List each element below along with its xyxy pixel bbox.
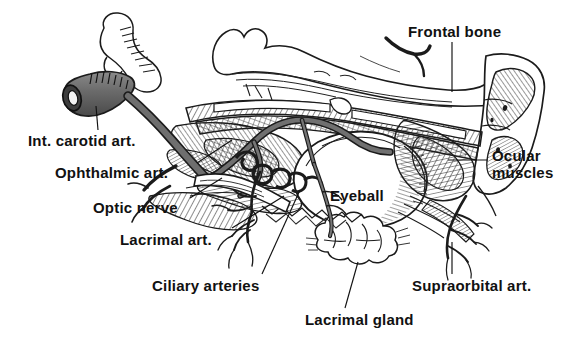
label-eyeball: Eyeball [330, 188, 384, 205]
supraorbital-artery [447, 196, 493, 280]
label-lacrimal-artery: Lacrimal art. [120, 232, 212, 249]
superior-vessel-branch [386, 38, 430, 76]
skull-and-orbit-drawing [60, 13, 544, 308]
frontal-bone-block [473, 54, 544, 216]
label-lacrimal-gland: Lacrimal gland [305, 312, 414, 329]
label-int-carotid-artery: Int. carotid art. [28, 133, 136, 150]
label-frontal-bone: Frontal bone [408, 24, 501, 41]
label-ocular-muscles-line2: muscles [492, 164, 553, 181]
label-optic-nerve: Optic nerve [93, 200, 178, 217]
anatomy-figure: Int. carotid art. Ophthalmic art. Optic … [0, 0, 578, 346]
leader-lacrimal-gland [345, 262, 358, 308]
label-ocular-muscles-line1: Ocular [492, 147, 541, 164]
label-supraorbital-artery: Supraorbital art. [412, 278, 531, 295]
label-ciliary-arteries: Ciliary arteries [152, 278, 259, 295]
label-ocular-muscles: Ocular muscles [492, 148, 553, 182]
label-ophthalmic-artery: Ophthalmic art. [55, 165, 168, 182]
